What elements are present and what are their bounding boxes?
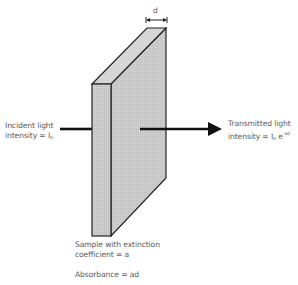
incident-light-label: Incident light intensity = Io [5,121,53,142]
sample-line2: coefficient = a [75,250,160,260]
thickness-arrow-left-icon [146,18,150,22]
sample-line1: Sample with extinction [75,240,160,250]
incident-line1: Incident light [5,121,53,131]
incident-line2: intensity = Io [5,131,53,143]
sample-label: Sample with extinction coefficient = a [75,240,160,259]
thickness-label: d [153,6,158,16]
absorbance-label: Absorbance = ad [75,270,139,280]
transmitted-light-label: Transmitted light intensity = Io e-ad [228,119,291,143]
transmitted-arrowhead-icon [208,122,222,136]
sample-front-face [92,84,111,236]
transmitted-line1: Transmitted light [228,119,291,129]
transmitted-line2: intensity = Io e-ad [228,129,291,144]
thickness-arrow-right-icon [163,18,167,22]
